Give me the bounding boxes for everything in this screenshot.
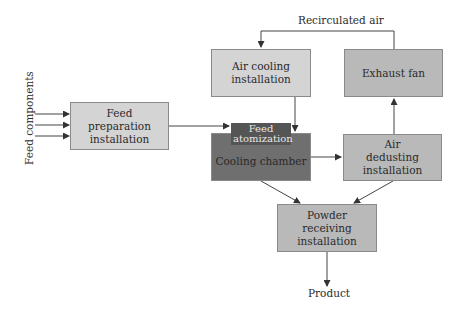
product-label: Product [308, 287, 350, 299]
exhaust-fan-label: Exhaust fan [362, 67, 425, 80]
feed-components-label: Feed components [23, 85, 35, 165]
exhaust-fan-node: Exhaust fan [344, 49, 443, 97]
feed-atomization-node: Feed atomization [231, 123, 291, 145]
recirculated-air-label: Recirculated air [298, 14, 384, 26]
powder-receiving-node: Powder receiving installation [277, 204, 377, 252]
air-cooling-node: Air cooling installation [211, 49, 311, 97]
air-dedusting-label: Air dedusting installation [358, 138, 428, 177]
air-cooling-label: Air cooling installation [226, 60, 296, 86]
cooling-chamber-label: Cooling chamber [215, 155, 306, 168]
feed-preparation-node: Feed preparation installation [70, 102, 169, 150]
feed-atomization-label: Feed atomization [233, 124, 289, 144]
powder-receiving-label: Powder receiving installation [287, 209, 367, 248]
air-dedusting-node: Air dedusting installation [343, 134, 442, 181]
feed-preparation-label: Feed preparation installation [80, 107, 160, 146]
